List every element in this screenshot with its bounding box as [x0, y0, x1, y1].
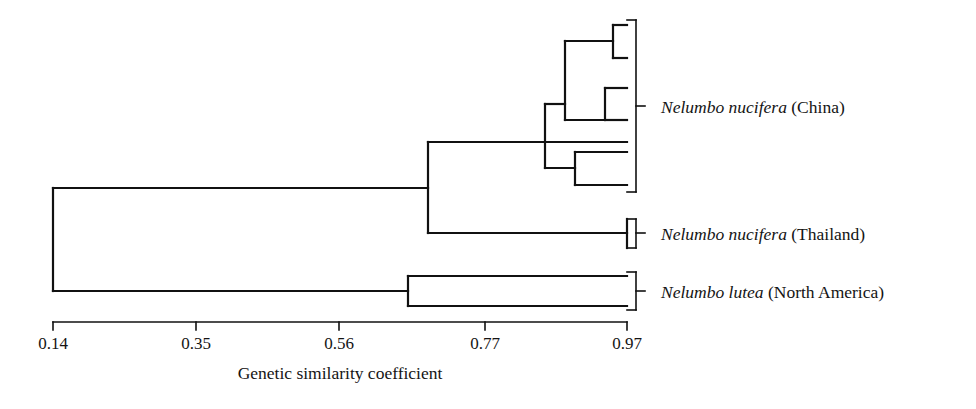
axis-tick-label-0.56: 0.56 [299, 335, 379, 352]
group-brackets [627, 20, 645, 310]
tree-branches [53, 25, 627, 306]
taxon-label-lutea: Nelumbo lutea (North America) [661, 284, 884, 302]
axis-tick-label-0.97: 0.97 [587, 335, 667, 352]
axis-tick-label-0.35: 0.35 [156, 335, 236, 352]
taxon-region: (North America) [764, 282, 885, 302]
dendrogram-figure: Nelumbo nucifera (China)Nelumbo nucifera… [0, 0, 976, 409]
taxon-scientific-name: Nelumbo nucifera [661, 224, 787, 244]
axis-tick-label-0.14: 0.14 [13, 335, 93, 352]
taxon-label-thailand: Nelumbo nucifera (Thailand) [661, 226, 865, 244]
taxon-scientific-name: Nelumbo lutea [661, 282, 764, 302]
taxon-region: (Thailand) [787, 224, 865, 244]
axis-tick-label-0.77: 0.77 [445, 335, 525, 352]
taxon-label-china: Nelumbo nucifera (China) [661, 99, 845, 117]
x-axis [53, 322, 627, 330]
axis-title: Genetic similarity coefficient [0, 365, 680, 383]
taxon-scientific-name: Nelumbo nucifera [661, 97, 787, 117]
taxon-region: (China) [787, 97, 845, 117]
